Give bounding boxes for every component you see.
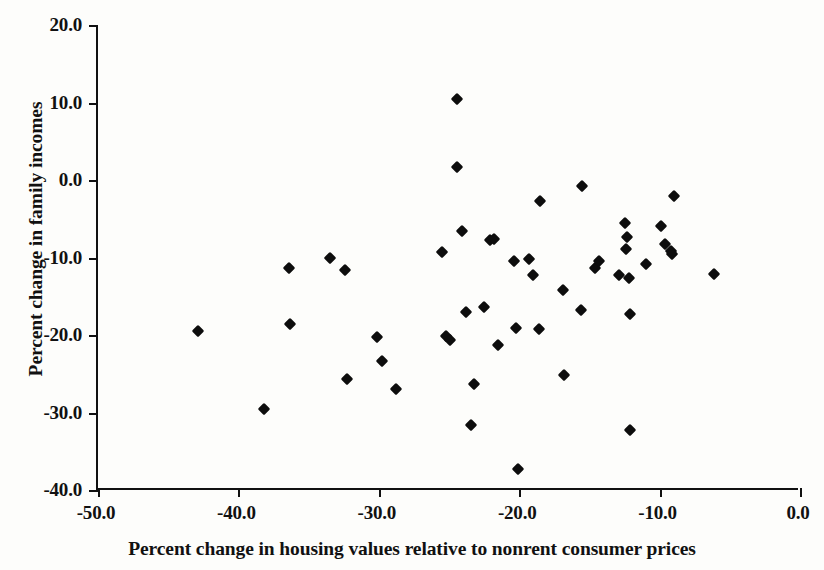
x-axis-title: Percent change in housing values relativ… (0, 538, 824, 560)
y-axis-tick (89, 25, 98, 27)
data-point (451, 93, 464, 106)
data-point (371, 331, 384, 344)
data-point (465, 419, 478, 432)
data-point (624, 308, 637, 321)
x-axis-tick-label: -50.0 (77, 502, 116, 524)
x-axis-tick-label: 0.0 (786, 502, 809, 524)
y-axis-tick (89, 413, 98, 415)
data-point (510, 322, 523, 335)
x-axis-tick-label: -10.0 (638, 502, 677, 524)
data-point (575, 304, 588, 317)
data-point (459, 305, 472, 318)
data-point (523, 253, 536, 266)
data-point (532, 322, 545, 335)
data-point (618, 217, 631, 230)
y-axis-tick (89, 180, 98, 182)
x-axis-tick (238, 488, 240, 497)
data-point (507, 255, 520, 268)
data-point (655, 219, 668, 232)
plot-area (96, 25, 798, 490)
scatter-plot-figure: 20.010.00.0-10.0-20.0-30.0-40.0 -50.0-40… (0, 0, 824, 570)
data-point (455, 225, 468, 238)
data-point (534, 195, 547, 208)
data-point (284, 318, 297, 331)
data-point (667, 189, 680, 202)
x-axis-tick-label: -40.0 (217, 502, 256, 524)
data-point (708, 267, 721, 280)
data-point (576, 180, 589, 193)
data-point (639, 258, 652, 271)
y-axis-title: Percent change in family incomes (25, 0, 47, 489)
data-point (283, 261, 296, 274)
x-axis-tick (98, 488, 100, 497)
x-axis-tick-label: -30.0 (358, 502, 397, 524)
data-point (624, 424, 637, 437)
data-point (323, 251, 336, 264)
data-point (621, 230, 634, 243)
y-axis-tick (89, 490, 98, 492)
data-point (620, 243, 633, 256)
data-point (436, 246, 449, 259)
data-point (191, 325, 204, 338)
y-axis-tick (89, 103, 98, 105)
y-axis-tick (89, 258, 98, 260)
x-axis-tick (660, 488, 662, 497)
data-point (340, 373, 353, 386)
data-point (468, 377, 481, 390)
x-axis-tick (379, 488, 381, 497)
data-point (451, 160, 464, 173)
data-point (257, 402, 270, 415)
x-axis-tick (800, 488, 802, 497)
data-point (556, 284, 569, 297)
data-point (527, 268, 540, 281)
data-point (511, 463, 524, 476)
data-point (375, 354, 388, 367)
data-point (389, 383, 402, 396)
data-point (558, 369, 571, 382)
data-point (339, 264, 352, 277)
data-point (478, 301, 491, 314)
y-axis-tick (89, 335, 98, 337)
x-axis-tick (519, 488, 521, 497)
data-point (492, 339, 505, 352)
x-axis-tick-label: -20.0 (498, 502, 537, 524)
